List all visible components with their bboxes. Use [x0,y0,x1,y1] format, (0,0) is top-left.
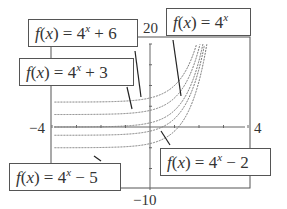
leader-line [94,156,101,161]
label-plus-6: f(x) = 4x + 6 [28,19,138,47]
x-max-label: 4 [254,121,262,136]
label-base: f(x) = 4x [166,8,251,36]
label-minus-2: f(x) = 4x − 2 [160,148,271,176]
leader-line [127,87,132,109]
x-min-label: −4 [29,121,45,136]
y-min-value: 10 [141,192,156,208]
leader-line [173,40,181,96]
label-plus-3: f(x) = 4x + 3 [19,58,134,86]
y-max-label: 20 [143,21,158,36]
x-min-value: 4 [37,120,45,136]
y-min-label: −10 [133,193,156,208]
leader-line [161,131,170,145]
label-minus-5: f(x) = 4x − 5 [9,163,121,191]
leader-line [135,51,141,97]
